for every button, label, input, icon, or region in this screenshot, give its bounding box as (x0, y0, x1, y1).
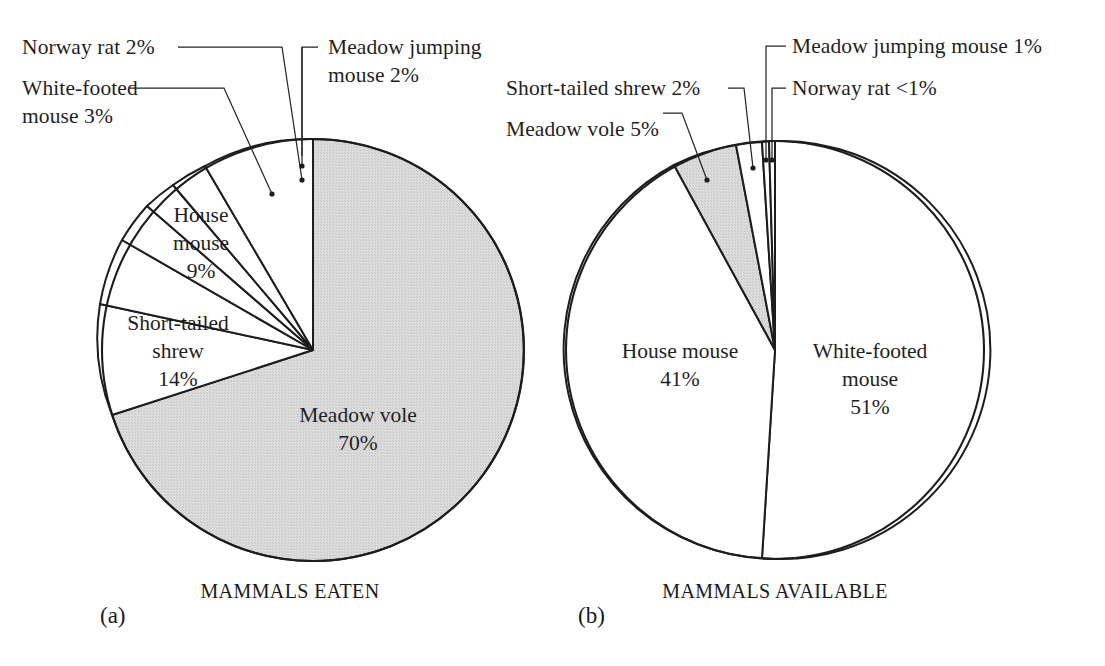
label-short-tailed-shrew-eaten-line2: shrew (152, 339, 204, 363)
caption-mammals-eaten: MAMMALS EATEN (200, 580, 379, 602)
label-house-mouse-eaten-line3: 9% (187, 259, 216, 283)
leader-dot-norway-rat-eaten (299, 177, 304, 182)
panel-letter-a: (a) (100, 603, 126, 628)
figure-container: Norway rat 2% White-footed mouse 3% Mead… (0, 0, 1105, 666)
label-white-footed-mouse-eaten-line2: mouse 3% (22, 104, 113, 128)
panel-letter-b: (b) (578, 603, 605, 628)
label-house-mouse-eaten-line2: mouse (173, 231, 229, 255)
label-meadow-jumping-mouse-eaten-line2: mouse 2% (328, 63, 419, 87)
label-white-footed-mouse-available-line2: mouse (842, 367, 898, 391)
label-norway-rat-available: Norway rat <1% (792, 76, 937, 100)
caption-mammals-available: MAMMALS AVAILABLE (662, 580, 888, 602)
label-house-mouse-available-line2: 41% (660, 367, 700, 391)
label-meadow-vole-eaten-line2: 70% (338, 431, 378, 455)
label-white-footed-mouse-available-line3: 51% (850, 395, 890, 419)
label-white-footed-mouse-eaten-line1: White-footed (22, 76, 138, 100)
label-norway-rat-eaten: Norway rat 2% (22, 35, 155, 59)
label-meadow-jumping-mouse-available: Meadow jumping mouse 1% (792, 34, 1042, 58)
leader-dot-meadow-jumping-mouse-available (763, 157, 768, 162)
leader-dot-short-tailed-shrew-available (750, 165, 755, 170)
label-short-tailed-shrew-available: Short-tailed shrew 2% (506, 76, 700, 100)
label-meadow-vole-eaten-line1: Meadow vole (299, 403, 417, 427)
label-white-footed-mouse-available-line1: White-footed (813, 339, 928, 363)
label-short-tailed-shrew-eaten-line3: 14% (158, 367, 198, 391)
leader-dot-white-footed-mouse-eaten (269, 191, 274, 196)
label-short-tailed-shrew-eaten-line1: Short-tailed (127, 311, 229, 335)
pie-charts-figure: Norway rat 2% White-footed mouse 3% Mead… (0, 0, 1105, 666)
leader-dot-meadow-vole-available (704, 177, 709, 182)
leader-dot-meadow-jumping-mouse-eaten (299, 163, 304, 168)
label-house-mouse-available-line1: House mouse (622, 339, 738, 363)
label-meadow-jumping-mouse-eaten-line1: Meadow jumping (328, 35, 482, 59)
leader-dot-norway-rat-available (769, 157, 774, 162)
label-house-mouse-eaten-line1: House (174, 203, 229, 227)
label-meadow-vole-available: Meadow vole 5% (506, 117, 659, 141)
